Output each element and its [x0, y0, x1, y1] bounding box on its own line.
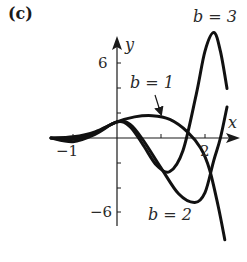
- label-b3: b = 3: [193, 7, 237, 26]
- tick-label-6: 6: [98, 54, 108, 72]
- tick-label-2: 2: [200, 142, 210, 160]
- b1-arrow-icon: [155, 95, 161, 114]
- label-b2: b = 2: [148, 205, 192, 224]
- axes: [52, 36, 240, 226]
- tick-label-neg1: −1: [56, 142, 78, 160]
- tick-label-neg6: −6: [90, 203, 112, 221]
- curves: [51, 33, 227, 240]
- label-b1: b = 1: [130, 73, 174, 92]
- x-axis-label: x: [228, 113, 237, 132]
- chart: x y −1 2 6 −6 b = 3 b = 1 b = 2: [0, 0, 247, 262]
- y-axis-label: y: [124, 35, 135, 54]
